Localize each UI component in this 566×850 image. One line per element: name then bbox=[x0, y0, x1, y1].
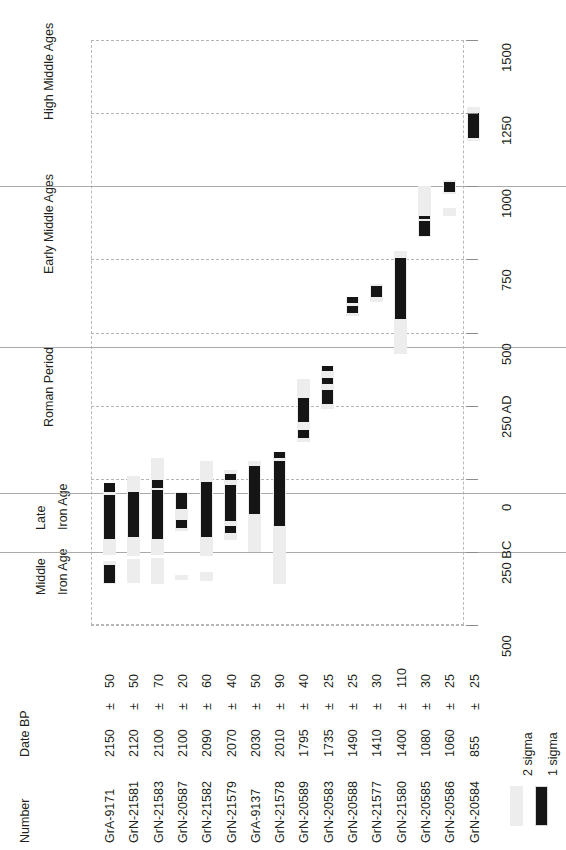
calibration-bar[interactable] bbox=[321, 40, 334, 625]
cell-date-bp: 1795 bbox=[297, 729, 311, 757]
cell-sigma: 25 bbox=[443, 674, 457, 688]
cell-number: GrN-20589 bbox=[297, 781, 311, 843]
legend-swatch-2-sigma bbox=[510, 786, 523, 826]
cell-date-bp: 2120 bbox=[127, 729, 141, 757]
calibration-bar[interactable] bbox=[175, 40, 188, 625]
one-sigma-range bbox=[444, 182, 455, 192]
cell-sigma: 50 bbox=[103, 674, 117, 688]
period-label: High Middle Ages bbox=[42, 23, 56, 120]
cell-number: GrN-21581 bbox=[127, 781, 141, 843]
axis-tick-mark bbox=[466, 40, 478, 41]
cell-date-bp: 2100 bbox=[176, 729, 190, 757]
period-label: Iron Age bbox=[56, 549, 70, 596]
period-label: Roman Period bbox=[42, 347, 56, 427]
cell-plusminus: ± bbox=[395, 703, 409, 710]
calibration-bar[interactable] bbox=[224, 40, 237, 625]
cell-number: GrN-20586 bbox=[443, 781, 457, 843]
calibration-bar[interactable] bbox=[346, 40, 359, 625]
cell-plusminus: ± bbox=[443, 703, 457, 710]
cell-sigma: 30 bbox=[419, 674, 433, 688]
calibration-bar[interactable] bbox=[127, 40, 140, 625]
cell-plusminus: ± bbox=[127, 703, 141, 710]
cell-sigma: 25 bbox=[322, 674, 336, 688]
axis-tick-label: 0 bbox=[499, 504, 514, 511]
one-sigma-range bbox=[274, 461, 285, 525]
period-label: Late bbox=[34, 505, 48, 529]
gridline bbox=[91, 625, 464, 626]
cell-date-bp: 2030 bbox=[249, 729, 263, 757]
cell-number: GrN-21577 bbox=[370, 781, 384, 843]
one-sigma-range bbox=[128, 492, 139, 537]
two-sigma-range bbox=[127, 559, 140, 582]
axis-tick-label: 250 AD bbox=[499, 395, 514, 438]
cell-plusminus: ± bbox=[176, 703, 190, 710]
one-sigma-range bbox=[176, 493, 187, 509]
cell-number: GrN-20585 bbox=[419, 781, 433, 843]
cell-date-bp: 1060 bbox=[443, 729, 457, 757]
one-sigma-range bbox=[249, 466, 260, 514]
cell-plusminus: ± bbox=[346, 703, 360, 710]
cell-sigma: 40 bbox=[225, 674, 239, 688]
period-label: Iron Age bbox=[56, 483, 70, 530]
calibration-bar[interactable] bbox=[248, 40, 261, 625]
calibration-bar[interactable] bbox=[151, 40, 164, 625]
cell-sigma: 25 bbox=[468, 674, 482, 688]
cell-sigma: 40 bbox=[297, 674, 311, 688]
axis-tick-label: 500 bbox=[499, 635, 514, 657]
cell-date-bp: 2010 bbox=[273, 729, 287, 757]
axis-tick-label: 500 bbox=[499, 343, 514, 365]
one-sigma-range bbox=[322, 378, 333, 384]
axis-tick-mark bbox=[466, 406, 478, 407]
cell-number: GrN-20584 bbox=[468, 781, 482, 843]
cell-sigma: 90 bbox=[273, 674, 287, 688]
axis-tick-label: 750 bbox=[499, 270, 514, 292]
one-sigma-range bbox=[104, 565, 115, 583]
one-sigma-range bbox=[322, 390, 333, 405]
cell-number: GrA-9137 bbox=[249, 789, 263, 843]
calibration-bar[interactable] bbox=[370, 40, 383, 625]
cell-plusminus: ± bbox=[225, 703, 239, 710]
cell-number: GrN-20588 bbox=[346, 781, 360, 843]
period-label: Early Middle Ages bbox=[42, 174, 56, 274]
calibration-bar[interactable] bbox=[443, 40, 456, 625]
cell-number: GrN-21580 bbox=[395, 781, 409, 843]
cell-number: GrA-9171 bbox=[103, 789, 117, 843]
one-sigma-range bbox=[104, 495, 115, 539]
calibration-bar[interactable] bbox=[273, 40, 286, 625]
cell-sigma: 25 bbox=[346, 674, 360, 688]
cell-number: GrN-20587 bbox=[176, 781, 190, 843]
cell-date-bp: 2100 bbox=[152, 729, 166, 757]
cell-date-bp: 1410 bbox=[370, 729, 384, 757]
calibration-bar[interactable] bbox=[297, 40, 310, 625]
legend-swatch-1-sigma bbox=[535, 786, 548, 826]
one-sigma-range bbox=[395, 258, 406, 319]
axis-tick-label: 250 BC bbox=[499, 541, 514, 584]
cell-number: GrN-20583 bbox=[322, 781, 336, 843]
calibration-bar[interactable] bbox=[200, 40, 213, 625]
axis-tick-mark bbox=[466, 113, 478, 114]
cell-plusminus: ± bbox=[322, 703, 336, 710]
period-label: Middle bbox=[34, 559, 48, 596]
one-sigma-range bbox=[176, 520, 187, 529]
axis-tick-label: 1000 bbox=[499, 189, 514, 218]
cell-number: GrN-21578 bbox=[273, 781, 287, 843]
cell-plusminus: ± bbox=[249, 703, 263, 710]
cell-sigma: 60 bbox=[200, 674, 214, 688]
one-sigma-range bbox=[419, 216, 430, 219]
calibration-bar[interactable] bbox=[418, 40, 431, 625]
two-sigma-range bbox=[151, 558, 164, 584]
cell-date-bp: 1735 bbox=[322, 729, 336, 757]
one-sigma-range bbox=[347, 306, 358, 313]
axis-tick-mark bbox=[466, 625, 478, 626]
cell-date-bp: 1490 bbox=[346, 729, 360, 757]
column-header-date-bp: Date BP bbox=[18, 710, 32, 757]
calibration-bar[interactable] bbox=[103, 40, 116, 625]
cell-sigma: 110 bbox=[395, 668, 409, 688]
one-sigma-range bbox=[468, 113, 479, 138]
two-sigma-range bbox=[443, 208, 456, 215]
calibration-bar[interactable] bbox=[394, 40, 407, 625]
cell-date-bp: 2090 bbox=[200, 729, 214, 757]
axis-tick-mark bbox=[466, 479, 478, 480]
one-sigma-range bbox=[298, 430, 309, 437]
axis-tick-label: 1250 bbox=[499, 116, 514, 145]
